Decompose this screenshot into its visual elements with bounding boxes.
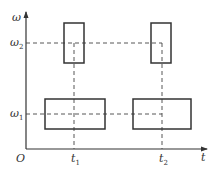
y-axis-label: ω bbox=[12, 11, 21, 24]
t2-label: t2 bbox=[159, 152, 168, 167]
origin-label: O bbox=[16, 152, 25, 165]
frequency-time-diagram: ω ω2 ω1 O t1 t2 t bbox=[0, 0, 224, 178]
x-axis-label: t bbox=[201, 151, 206, 164]
omega1-label: ω1 bbox=[10, 107, 23, 122]
t1-label: t1 bbox=[71, 152, 80, 167]
omega2-label: ω2 bbox=[10, 36, 23, 51]
